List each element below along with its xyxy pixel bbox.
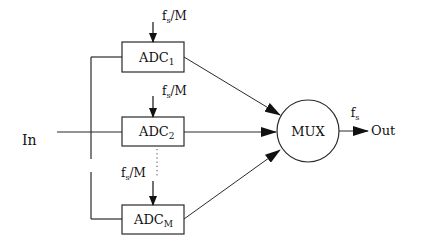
- mux-label: MUX: [291, 124, 325, 139]
- adc-2-block: ADC2: [122, 117, 184, 146]
- input-label: In: [22, 132, 37, 148]
- adc-1-to-mux-arrow: [184, 57, 280, 115]
- clock-arrow-adc-1: fs/M: [153, 9, 187, 42]
- output-rate-label: fs: [351, 106, 360, 122]
- adc-1-block: ADC1: [122, 42, 184, 72]
- clock-label-adc-1: fs/M: [162, 9, 187, 25]
- input-bus: [91, 57, 122, 219]
- clock-arrow-adc-m: fs/M: [121, 166, 153, 205]
- clock-label-adc-m: fs/M: [121, 166, 146, 182]
- output-label: Out: [371, 123, 396, 138]
- adc-m-to-mux-arrow: [184, 150, 280, 219]
- mux-block: MUX: [277, 100, 339, 162]
- adc-m-block: ADCM: [122, 205, 184, 234]
- clock-label-adc-2: fs/M: [162, 84, 187, 100]
- clock-arrow-adc-2: fs/M: [153, 84, 187, 117]
- diagram-canvas: In ADC1 fs/M ADC2 fs/M ADCM fs/M: [0, 0, 427, 250]
